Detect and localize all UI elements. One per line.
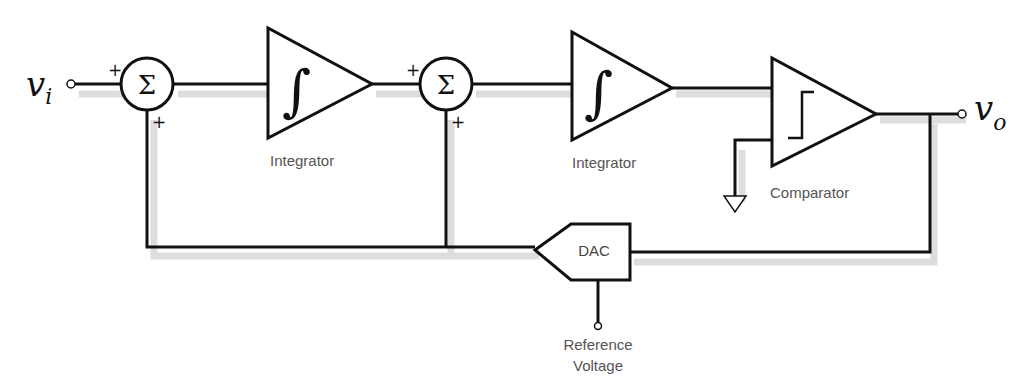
plus-sign-left: + [108,60,122,80]
integrator-1: ∫ Integrator [268,28,372,169]
sigma-icon: Σ [138,70,156,100]
integral-icon: ∫ [584,60,613,125]
ground-icon [724,196,746,212]
dac: DAC [535,224,630,280]
output-terminal [958,110,966,118]
integrator-2-label: Integrator [572,154,636,171]
sigma-icon: Σ [437,70,455,100]
integrator-1-label: Integrator [270,152,334,169]
dac-label: DAC [578,242,610,259]
plus-sign-bottom: + [152,112,166,132]
plus-sign-bottom: + [451,112,465,132]
output-label: vo [974,88,1006,135]
reference-terminal [595,323,602,330]
input-label: vi [26,64,52,109]
block-diagram: vi Σ + + ∫ Integrator Σ + + ∫ Integrator… [0,0,1036,391]
reference-label-line1: Reference [563,336,632,353]
input-terminal [67,80,75,88]
plus-sign-left: + [406,60,420,80]
integral-icon: ∫ [282,58,311,123]
integrator-2: ∫ Integrator [572,32,672,171]
comparator: Comparator [770,58,876,201]
comparator-label: Comparator [770,184,849,201]
reference-label-line2: Voltage [573,357,623,374]
